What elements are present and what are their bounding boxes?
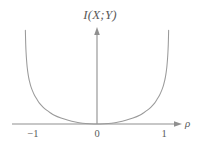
x-tick-label-zero: 0 xyxy=(85,129,109,140)
page-title: I(X;Y) xyxy=(0,8,200,21)
y-axis-arrowhead xyxy=(94,27,100,35)
mutual-information-figure: I(X;Y) ρ −1 0 1 xyxy=(0,0,200,146)
axes-group xyxy=(12,27,182,127)
x-tick-label-one: 1 xyxy=(152,129,176,140)
x-tick-label-negative-one: −1 xyxy=(20,129,46,140)
x-axis-arrowhead xyxy=(174,121,182,127)
x-axis-label: ρ xyxy=(185,118,190,129)
